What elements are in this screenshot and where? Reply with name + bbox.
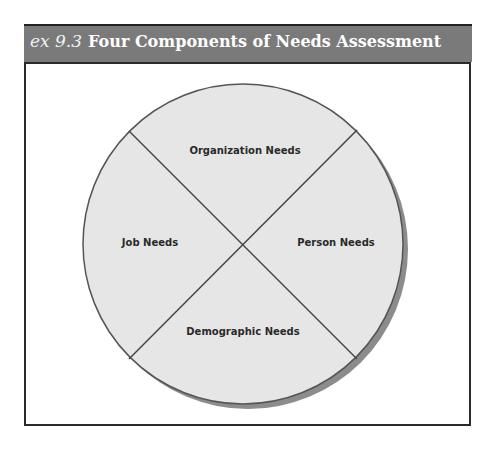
needs-assessment-diagram: Organization Needs Job Needs Person Need… xyxy=(0,0,494,453)
quadrant-label-demographic: Demographic Needs xyxy=(186,326,299,337)
quadrant-label-person: Person Needs xyxy=(297,237,375,248)
quadrant-label-organization: Organization Needs xyxy=(189,145,300,156)
quadrant-label-job: Job Needs xyxy=(121,237,178,248)
